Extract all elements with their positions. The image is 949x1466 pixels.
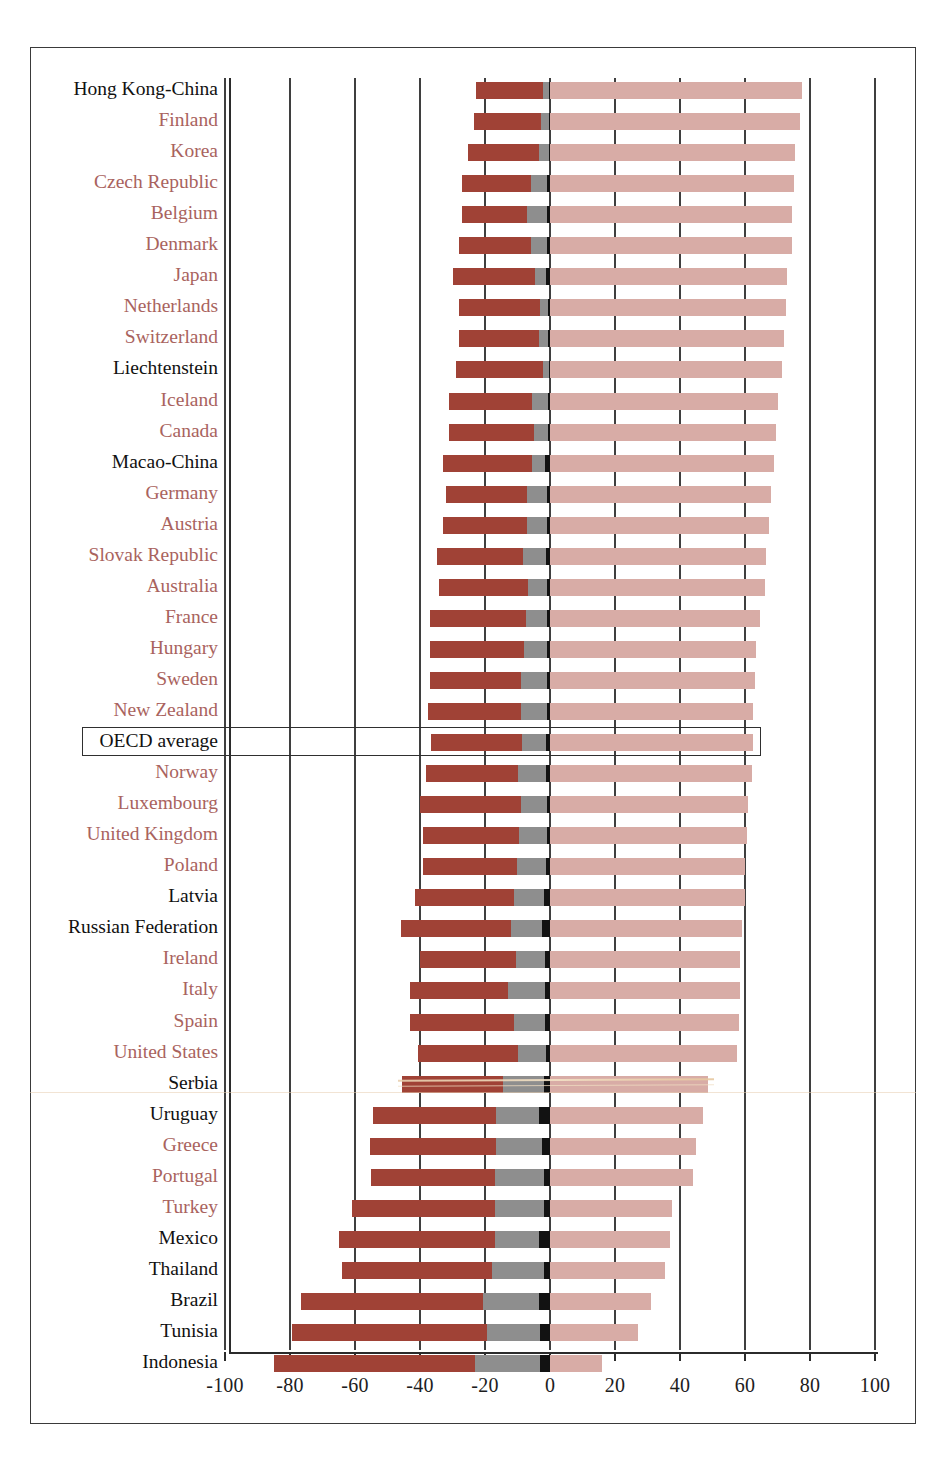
segment-level-2-and-above — [550, 610, 760, 627]
chart-row-sweden: Sweden — [0, 668, 949, 699]
segment-level-1 — [508, 982, 545, 999]
chart-row-hong-kong-china: Hong Kong-China — [0, 78, 949, 109]
segment-below-level-1 — [449, 424, 534, 441]
stacked-bar-korea — [0, 144, 949, 161]
segment-level-2-and-above — [550, 1355, 602, 1372]
segment-level-2-and-above — [550, 486, 771, 503]
chart-row-spain: Spain — [0, 1010, 949, 1041]
segment-level-1 — [535, 268, 546, 285]
stacked-bar-macao-china — [0, 455, 949, 472]
segment-below-level-1 — [430, 610, 526, 627]
segment-level-1 — [532, 455, 545, 472]
stacked-bar-austria — [0, 517, 949, 534]
scan-crease-artifact — [30, 1092, 916, 1093]
segment-level-1 — [524, 641, 547, 658]
segment-below-level-1 — [462, 206, 527, 223]
segment-level-1 — [540, 299, 548, 316]
segment-level-2-and-above — [550, 920, 742, 937]
segment-below-level-1 — [423, 827, 519, 844]
segment-below-level-1 — [415, 889, 514, 906]
segment-level-2-and-above — [550, 1045, 737, 1062]
segment-level-2-and-above — [550, 268, 787, 285]
stacked-bar-turkey — [0, 1200, 949, 1217]
segment-black-band — [542, 1138, 550, 1155]
stacked-bar-ireland — [0, 951, 949, 968]
segment-below-level-1 — [371, 1169, 495, 1186]
stacked-bar-serbia — [0, 1076, 949, 1093]
chart-row-united-kingdom: United Kingdom — [0, 823, 949, 854]
chart-row-norway: Norway — [0, 761, 949, 792]
chart-row-czech-republic: Czech Republic — [0, 171, 949, 202]
segment-below-level-1 — [439, 579, 528, 596]
scanned-chart-page: -100-80-60-40-20020406080100 Hong Kong-C… — [0, 0, 949, 1466]
segment-level-2-and-above — [550, 951, 740, 968]
segment-below-level-1 — [459, 299, 540, 316]
segment-level-1 — [483, 1293, 538, 1310]
chart-row-new-zealand: New Zealand — [0, 699, 949, 730]
stacked-bar-netherlands — [0, 299, 949, 316]
chart-row-hungary: Hungary — [0, 637, 949, 668]
segment-level-2-and-above — [550, 982, 740, 999]
segment-below-level-1 — [420, 796, 521, 813]
segment-level-1 — [521, 672, 547, 689]
segment-black-band — [539, 1293, 550, 1310]
stacked-bar-hong-kong-china — [0, 82, 949, 99]
segment-level-2-and-above — [550, 237, 792, 254]
stacked-bar-mexico — [0, 1231, 949, 1248]
segment-level-1 — [527, 486, 547, 503]
segment-level-1 — [492, 1262, 544, 1279]
segment-level-1 — [531, 237, 547, 254]
segment-level-1 — [516, 951, 545, 968]
stacked-bar-poland — [0, 858, 949, 875]
segment-below-level-1 — [459, 237, 531, 254]
chart-row-slovak-republic: Slovak Republic — [0, 544, 949, 575]
stacked-bar-sweden — [0, 672, 949, 689]
segment-below-level-1 — [292, 1324, 487, 1341]
chart-row-serbia: Serbia — [0, 1072, 949, 1103]
chart-row-portugal: Portugal — [0, 1165, 949, 1196]
segment-level-2-and-above — [550, 1169, 693, 1186]
segment-below-level-1 — [410, 1014, 514, 1031]
segment-level-2-and-above — [550, 455, 774, 472]
segment-level-1 — [523, 548, 546, 565]
segment-black-band — [542, 920, 550, 937]
chart-row-italy: Italy — [0, 978, 949, 1009]
segment-level-1 — [518, 1045, 546, 1062]
segment-below-level-1 — [453, 268, 534, 285]
chart-row-netherlands: Netherlands — [0, 295, 949, 326]
chart-row-luxembourg: Luxembourg — [0, 792, 949, 823]
chart-row-australia: Australia — [0, 575, 949, 606]
segment-below-level-1 — [449, 393, 532, 410]
segment-below-level-1 — [274, 1355, 476, 1372]
chart-row-uruguay: Uruguay — [0, 1103, 949, 1134]
segment-level-2-and-above — [550, 517, 769, 534]
segment-level-2-and-above — [550, 299, 786, 316]
stacked-bar-tunisia — [0, 1324, 949, 1341]
segment-level-1 — [532, 393, 548, 410]
segment-black-band — [540, 1355, 550, 1372]
segment-level-2-and-above — [550, 1200, 672, 1217]
stacked-bar-italy — [0, 982, 949, 999]
segment-below-level-1 — [446, 486, 527, 503]
stacked-bar-switzerland — [0, 330, 949, 347]
segment-level-2-and-above — [550, 1324, 638, 1341]
segment-level-1 — [526, 610, 547, 627]
segment-level-1 — [496, 1138, 542, 1155]
stacked-bar-united-states — [0, 1045, 949, 1062]
chart-row-liechtenstein: Liechtenstein — [0, 357, 949, 388]
segment-below-level-1 — [410, 982, 508, 999]
segment-level-2-and-above — [550, 1138, 696, 1155]
segment-level-2-and-above — [550, 827, 747, 844]
segment-below-level-1 — [373, 1107, 497, 1124]
segment-level-2-and-above — [550, 361, 782, 378]
segment-level-1 — [518, 765, 546, 782]
segment-below-level-1 — [430, 641, 524, 658]
chart-row-brazil: Brazil — [0, 1289, 949, 1320]
segment-level-1 — [495, 1231, 539, 1248]
segment-black-band — [539, 1107, 550, 1124]
chart-row-latvia: Latvia — [0, 885, 949, 916]
segment-black-band — [539, 1231, 550, 1248]
segment-level-2-and-above — [550, 82, 802, 99]
segment-below-level-1 — [443, 517, 528, 534]
segment-level-1 — [519, 827, 547, 844]
